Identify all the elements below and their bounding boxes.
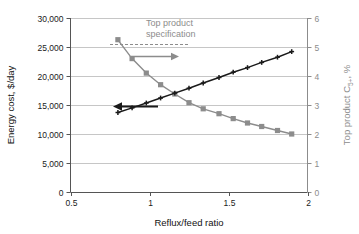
x-tick-label: 2 [306, 198, 311, 208]
left-tick-label: 10,000 [38, 130, 64, 140]
svg-text:Top product C5+, %: Top product C5+, % [341, 64, 354, 145]
y-axis-title: Energy cost, $/day [5, 65, 16, 144]
data-point-marker [115, 37, 120, 42]
data-point-marker [186, 100, 191, 105]
left-tick-label: 20,000 [38, 72, 64, 82]
x-tick-label: 1 [148, 198, 153, 208]
left-tick-label: 15,000 [38, 101, 64, 111]
data-point-marker [245, 120, 250, 125]
data-point-marker [158, 82, 163, 87]
right-tick-label: 1 [315, 159, 320, 169]
data-point-marker [275, 128, 280, 133]
y2-axis-title: Top product C5+, % [341, 64, 354, 145]
annotation-line-2: specification [146, 29, 196, 39]
left-tick-label: 30,000 [38, 14, 64, 24]
left-tick-label: 0 [59, 188, 64, 198]
data-point-marker [201, 106, 206, 111]
data-point-marker [289, 131, 294, 136]
annotation-line-1: Top product [146, 18, 194, 28]
chart-container: 05,00010,00015,00020,00025,00030,000 012… [0, 0, 359, 234]
right-tick-label: 6 [315, 14, 320, 24]
data-point-marker [259, 124, 264, 129]
x-tick-label: 0.5 [66, 198, 78, 208]
energy-cost-vs-reflux-feed-ratio-chart: 05,00010,00015,00020,00025,00030,000 012… [0, 0, 359, 234]
right-tick-label: 3 [315, 101, 320, 111]
left-tick-label: 25,000 [38, 43, 64, 53]
right-tick-label: 0 [315, 188, 320, 198]
data-point-marker [216, 111, 221, 116]
right-tick-label: 4 [315, 72, 320, 82]
x-tick-label: 1.5 [224, 198, 236, 208]
x-axis-title: Reflux/feed ratio [154, 217, 223, 228]
data-point-marker [144, 71, 149, 76]
data-point-marker [231, 116, 236, 121]
right-tick-label: 2 [315, 130, 320, 140]
left-tick-label: 5,000 [42, 159, 64, 169]
right-tick-label: 5 [315, 43, 320, 53]
